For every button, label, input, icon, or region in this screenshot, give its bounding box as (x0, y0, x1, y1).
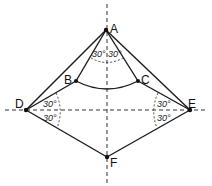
point-C (136, 79, 140, 83)
segment-AD (26, 30, 106, 110)
angle-label-A-left: 30° (92, 49, 106, 59)
angle-label-A-right: 30° (108, 49, 122, 59)
label-F: F (110, 156, 117, 170)
angle-label-D-upper: 30° (43, 99, 57, 109)
label-C: C (141, 73, 150, 87)
point-F (105, 155, 109, 159)
point-D (24, 108, 28, 112)
angle-label-E-upper: 30° (157, 99, 171, 109)
label-D: D (15, 97, 24, 111)
angle-label-E-lower: 30° (157, 113, 171, 123)
angle-label-D-lower: 30° (43, 113, 57, 123)
segment-EF (107, 110, 190, 157)
segment-AE (106, 30, 190, 110)
label-B: B (64, 73, 72, 87)
geometry-diagram: A B C D E F 30° 30° 30° 30° 30° 30° (0, 0, 212, 186)
point-B (74, 79, 78, 83)
point-A (104, 28, 108, 32)
label-E: E (188, 97, 196, 111)
diagram-svg: A B C D E F 30° 30° 30° 30° 30° 30° (0, 0, 212, 186)
label-A: A (110, 22, 118, 36)
segment-DF (26, 110, 107, 157)
